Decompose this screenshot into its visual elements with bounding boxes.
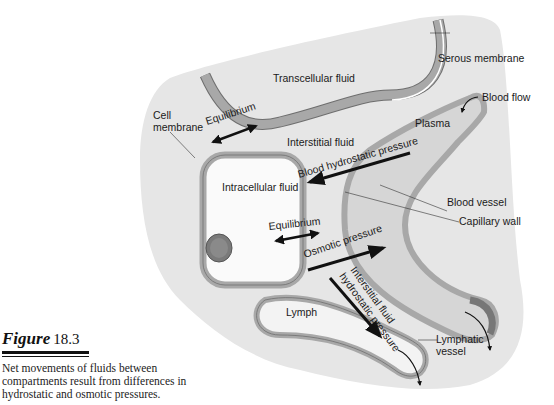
label-plasma: Plasma (415, 117, 450, 129)
figure-label: Figure (2, 329, 50, 348)
label-intracellular-fluid: Intracellular fluid (222, 181, 299, 193)
caption-rule-thick (2, 351, 89, 354)
label-interstitial-fluid: Interstitial fluid (287, 136, 354, 148)
label-blood-flow: Blood flow (482, 91, 531, 103)
caption-rule-thin (2, 356, 89, 357)
figure-caption: Figure18.3 Net movements of fluids betwe… (2, 330, 202, 401)
label-lymphatic-vessel-2: vessel (436, 345, 466, 357)
label-cell-membrane-1: Cell (153, 109, 171, 121)
label-lymphatic-vessel-1: Lymphatic (436, 333, 483, 345)
label-lymph: Lymph (286, 306, 317, 318)
label-serous-membrane: Serous membrane (438, 52, 525, 64)
figure-number: 18.3 (53, 331, 79, 347)
label-blood-vessel: Blood vessel (447, 196, 507, 208)
label-cell-membrane-2: membrane (153, 121, 203, 133)
figure-title: Figure18.3 (2, 330, 202, 348)
figure-caption-text: Net movements of fluids between compartm… (2, 362, 202, 401)
label-capillary-wall: Capillary wall (459, 215, 521, 227)
label-transcellular-fluid: Transcellular fluid (273, 72, 355, 84)
